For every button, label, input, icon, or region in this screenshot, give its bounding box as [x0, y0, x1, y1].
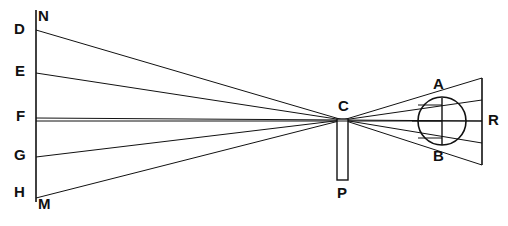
- label-C: C: [338, 98, 349, 113]
- label-N: N: [38, 8, 49, 23]
- label-D: D: [14, 21, 25, 36]
- outgoing-ray-m: [343, 78, 482, 120]
- label-G: G: [14, 147, 26, 162]
- outgoing-ray-e: [343, 120, 482, 143]
- label-B: B: [433, 148, 444, 163]
- label-P: P: [337, 185, 347, 200]
- incoming-ray-G: [36, 120, 343, 157]
- ray-diagram-figure: N D E F G H M C P A B R: [0, 0, 508, 226]
- label-A: A: [433, 76, 444, 91]
- incoming-ray-D: [36, 30, 343, 120]
- diagram-canvas: [0, 0, 508, 226]
- label-E: E: [15, 63, 25, 78]
- incoming-ray-M: [36, 120, 343, 198]
- outgoing-ray-g: [343, 100, 482, 120]
- label-M: M: [38, 196, 51, 211]
- incoming-ray-F: [36, 118, 343, 120]
- aperture-bar: [337, 119, 348, 180]
- label-R: R: [488, 112, 499, 127]
- label-F: F: [16, 108, 25, 123]
- outgoing-ray-d: [343, 120, 482, 165]
- incoming-ray-E: [36, 73, 343, 120]
- label-H: H: [14, 184, 25, 199]
